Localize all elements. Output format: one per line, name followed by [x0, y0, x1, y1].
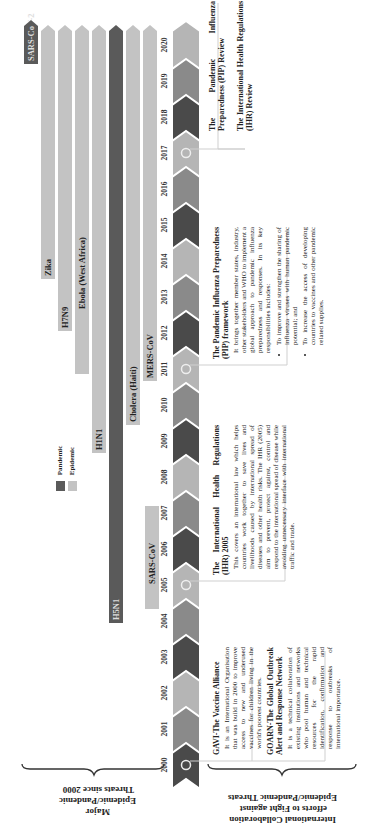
brace-left — [0, 0, 371, 829]
caption-major-threats: Major Epidemic/Pandemic Threats since 20… — [48, 773, 148, 817]
rotated-figure: SARS-CoV-2 Zika H7N9 Ebola (West Africa)… — [0, 0, 371, 829]
caption-international-efforts: International Collaboration efforts to F… — [218, 773, 348, 825]
